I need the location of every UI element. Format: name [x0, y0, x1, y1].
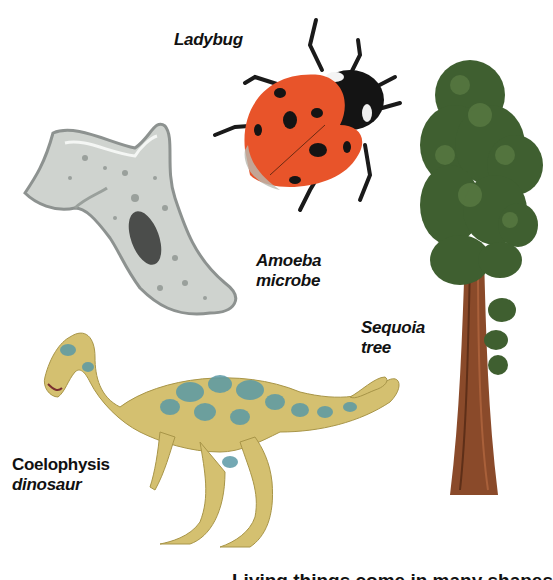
amoeba-illustration	[15, 118, 245, 328]
amoeba-label-line1: Amoeba	[256, 251, 321, 271]
dinosaur-label-line1: Coelophysis	[12, 455, 110, 475]
dinosaur-label: Coelophysis dinosaur	[12, 455, 110, 495]
sequoia-tree-illustration	[410, 55, 550, 500]
coelophysis-dinosaur-illustration	[40, 322, 410, 557]
amoeba-label: Amoeba microbe	[256, 251, 321, 291]
amoeba-label-line2: microbe	[256, 271, 321, 291]
caption: Living things come in many shapes	[232, 568, 553, 580]
dinosaur-label-line2: dinosaur	[12, 475, 110, 495]
